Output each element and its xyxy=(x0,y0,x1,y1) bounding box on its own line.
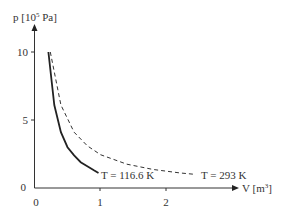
curve-t-293 xyxy=(50,52,195,174)
x-tick-label-0: 0 xyxy=(33,196,39,208)
label-t-116: T = 116.6 K xyxy=(101,169,154,181)
y-tick-label-10: 10 xyxy=(17,46,29,58)
y-tick-label-0: 0 xyxy=(21,181,27,193)
y-tick-label-5: 5 xyxy=(23,114,29,126)
x-axis-arrow-icon xyxy=(232,185,239,191)
x-axis-label: V [m3] xyxy=(242,182,272,194)
y-axis-label: p [105 Pa] xyxy=(13,11,57,23)
y-axis-arrow-icon xyxy=(32,24,38,31)
label-t-293: T = 293 K xyxy=(201,169,246,181)
x-tick-label-1: 1 xyxy=(97,196,103,208)
curve-t-116 xyxy=(48,52,98,173)
pv-chart: 10 5 0 0 1 2 p [105 Pa] V [m3] T = 116.6… xyxy=(0,0,282,218)
x-tick-label-2: 2 xyxy=(163,196,169,208)
